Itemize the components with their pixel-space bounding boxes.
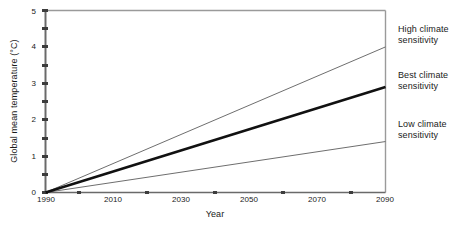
y-tick-2p5 <box>42 100 48 103</box>
y-tick-3 <box>42 82 48 85</box>
legend-item-low-climate-sensitivity: Low climate sensitivity <box>398 119 461 140</box>
x-tick-labels: 1990 2010 2030 2050 2070 2090 <box>37 195 394 204</box>
legend-label-low-line1: Low climate <box>398 119 461 130</box>
x-tick-label-1990: 1990 <box>37 195 55 204</box>
y-tick-4p5 <box>42 27 48 30</box>
data-series-group <box>46 47 386 193</box>
series-line-high-climate-sensitivity <box>46 47 386 193</box>
series-line-low-climate-sensitivity <box>46 142 386 193</box>
y-tick-3p5 <box>42 64 48 67</box>
y-tick-2 <box>42 118 48 121</box>
x-tick-label-2070: 2070 <box>308 195 326 204</box>
x-tick-2080 <box>349 191 353 194</box>
legend-label-best-line2: sensitivity <box>398 81 461 92</box>
x-tick-label-2030: 2030 <box>172 195 190 204</box>
x-tick-2060 <box>281 191 285 194</box>
y-tick-5 <box>42 9 48 12</box>
y-tick-labels: 5 4 3 2 1 0 <box>32 7 37 198</box>
y-tick-1 <box>42 155 48 158</box>
y-tick-label-2: 2 <box>32 115 37 124</box>
x-tick-label-2090: 2090 <box>376 195 394 204</box>
legend-label-low-line2: sensitivity <box>398 130 461 141</box>
line-chart-plot: 5 4 3 2 1 0 1990 2010 2030 2050 2070 209… <box>0 0 461 228</box>
y-tick-0p5 <box>42 173 48 176</box>
legend-label-high-line2: sensitivity <box>398 35 461 46</box>
legend-label-high-line1: High climate <box>398 24 461 35</box>
x-tick-label-2010: 2010 <box>104 195 122 204</box>
legend-label-best-line1: Best climate <box>398 70 461 81</box>
chart-figure: 5 4 3 2 1 0 1990 2010 2030 2050 2070 209… <box>0 0 461 228</box>
y-axis-title: Global mean temperature (°C) <box>9 21 19 181</box>
x-tick-2040 <box>213 191 217 194</box>
x-tick-label-2050: 2050 <box>240 195 258 204</box>
y-tick-label-4: 4 <box>32 42 37 51</box>
x-tick-2020 <box>145 191 149 194</box>
y-tick-4 <box>42 45 48 48</box>
legend-item-high-climate-sensitivity: High climate sensitivity <box>398 24 461 45</box>
series-line-best-climate-sensitivity <box>46 87 386 193</box>
y-tick-label-1: 1 <box>32 152 37 161</box>
y-tick-label-0: 0 <box>32 188 37 197</box>
legend-item-best-climate-sensitivity: Best climate sensitivity <box>398 70 461 91</box>
y-tick-label-5: 5 <box>32 7 37 16</box>
x-axis-title: Year <box>185 209 245 219</box>
y-tick-label-3: 3 <box>32 79 37 88</box>
x-tick-2000 <box>77 191 81 194</box>
y-tick-1p5 <box>42 137 48 140</box>
